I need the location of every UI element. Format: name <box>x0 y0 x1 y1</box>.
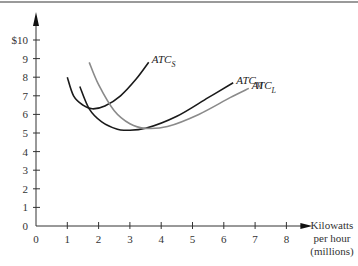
y-tick-label: 4 <box>23 146 29 158</box>
y-axis-arrow-icon <box>33 12 39 26</box>
curve-label-atc-l: ATCL <box>251 79 277 95</box>
x-axis-label: (millions) <box>310 245 354 258</box>
y-tick-label: 0 <box>23 220 29 232</box>
x-axis-label: Kilowatts <box>311 219 354 231</box>
axes: 0123456789$10012345678Kilowattsper hour(… <box>12 12 355 258</box>
y-tick-label: 5 <box>23 127 29 139</box>
y-tick-label: 2 <box>23 183 29 195</box>
x-axis-label: per hour <box>314 232 351 244</box>
curve-label-atc-s: ATCS <box>151 53 176 69</box>
y-tick-label: 7 <box>23 90 29 102</box>
x-tick-label: 0 <box>33 233 39 245</box>
y-tick-label: 9 <box>23 53 29 65</box>
chart: 0123456789$10012345678Kilowattsper hour(… <box>0 0 358 266</box>
x-tick-label: 8 <box>284 233 290 245</box>
x-tick-label: 7 <box>252 233 258 245</box>
y-tick-label: 3 <box>23 164 29 176</box>
x-tick-label: 3 <box>127 233 133 245</box>
y-tick-label: 8 <box>23 71 29 83</box>
y-tick-label: 1 <box>23 201 29 213</box>
curve-labels: ATCSATCMATCL <box>151 53 277 95</box>
curves <box>67 62 249 130</box>
x-tick-label: 1 <box>65 233 71 245</box>
x-tick-label: 5 <box>190 233 196 245</box>
curve-atc-l <box>89 62 249 128</box>
x-tick-label: 6 <box>221 233 227 245</box>
x-tick-label: 4 <box>158 233 164 245</box>
x-tick-label: 2 <box>96 233 102 245</box>
y-tick-label: $10 <box>12 34 29 46</box>
y-tick-label: 6 <box>23 108 29 120</box>
